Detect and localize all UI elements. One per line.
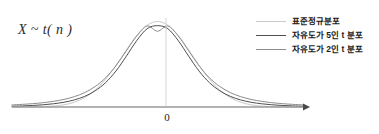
legend: 표준정규분포 자유도가 5인 t 분포 자유도가 2인 t 분포 [256, 14, 378, 56]
legend-label-normal: 표준정규분포 [292, 14, 340, 28]
legend-label-t5: 자유도가 5인 t 분포 [292, 28, 363, 42]
legend-swatch-t2 [256, 49, 286, 50]
t-distribution-figure: X ~ t( n ) 0 표준정규분포 자유도가 5인 t 분포 자유도가 2인… [0, 0, 379, 134]
legend-item-normal: 표준정규분포 [256, 14, 378, 28]
legend-swatch-normal [256, 21, 286, 22]
origin-tick-label: 0 [160, 111, 174, 123]
legend-label-t2: 자유도가 2인 t 분포 [292, 42, 363, 56]
legend-item-t5: 자유도가 5인 t 분포 [256, 28, 378, 42]
legend-swatch-t5 [256, 35, 286, 36]
x-axis-arrowhead [303, 103, 310, 110]
legend-item-t2: 자유도가 2인 t 분포 [256, 42, 378, 56]
